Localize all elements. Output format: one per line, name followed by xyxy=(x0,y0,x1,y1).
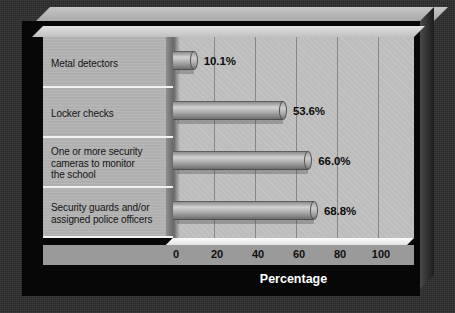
xtick-0: 0 xyxy=(161,248,191,260)
bar-metal-detectors xyxy=(173,51,194,70)
row-separator xyxy=(43,186,173,188)
bar-security-cameras xyxy=(173,151,308,170)
xtick-60: 60 xyxy=(284,248,314,260)
bar-value-security-guards: 68.8% xyxy=(324,205,356,217)
plot-area xyxy=(173,37,414,238)
gridline-100 xyxy=(378,37,379,238)
category-label-line: Security guards and/or xyxy=(51,202,171,214)
category-label-line: cameras to monitor xyxy=(51,158,171,170)
bar-shadow xyxy=(177,120,283,124)
row-separator xyxy=(43,136,173,138)
bar-cap-icon xyxy=(279,101,287,120)
row-separator xyxy=(43,236,173,238)
bar-security-guards xyxy=(173,201,314,220)
category-label-line: One or more security xyxy=(51,146,171,158)
row-separator xyxy=(43,86,173,88)
chart-root: Security Measure Metal detectors Locker … xyxy=(0,0,455,313)
card-right-bevel xyxy=(420,7,434,289)
bar-value-locker-checks: 53.6% xyxy=(293,105,325,117)
category-label-metal-detectors: Metal detectors xyxy=(51,58,171,70)
xtick-80: 80 xyxy=(325,248,355,260)
bar-shadow xyxy=(177,220,314,224)
bar-cap-icon xyxy=(310,201,318,220)
bar-value-metal-detectors: 10.1% xyxy=(204,55,236,67)
bar-cap-icon xyxy=(190,51,198,70)
category-label-line: assigned police officers xyxy=(51,214,171,226)
bar-shadow xyxy=(177,70,194,74)
xtick-100: 100 xyxy=(366,248,396,260)
bar-cap-icon xyxy=(304,151,312,170)
xtick-20: 20 xyxy=(202,248,232,260)
plot-top-bevel xyxy=(32,26,425,37)
bar-locker-checks xyxy=(173,101,283,120)
category-label-locker-checks: Locker checks xyxy=(51,108,171,120)
category-label-line: Locker checks xyxy=(51,108,171,120)
bar-value-security-cameras: 66.0% xyxy=(318,155,350,167)
category-label-security-cameras: One or more security cameras to monitor … xyxy=(51,146,171,181)
bar-shadow xyxy=(177,170,308,174)
card-top-bevel xyxy=(36,7,448,21)
category-label-line: Metal detectors xyxy=(51,58,171,70)
x-axis-title: Percentage xyxy=(173,272,414,286)
category-label-security-guards: Security guards and/or assigned police o… xyxy=(51,202,171,225)
axis-floor-slab xyxy=(166,238,414,245)
xtick-40: 40 xyxy=(243,248,273,260)
category-label-line: the school xyxy=(51,169,171,181)
